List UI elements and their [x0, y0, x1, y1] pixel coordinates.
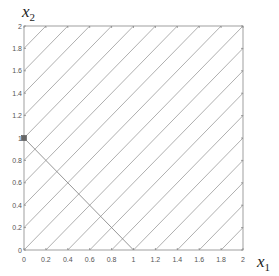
- x-tick-label: 0: [22, 256, 26, 263]
- x-tick-label: 1.8: [216, 256, 226, 263]
- y-tick-label: 0.6: [12, 179, 22, 186]
- contour-line: [177, 183, 243, 250]
- x-tick-label: 0.4: [63, 256, 73, 263]
- x-axis-label: x1: [257, 252, 270, 273]
- contour-line: [155, 160, 243, 250]
- contour-line: [199, 205, 243, 250]
- y-tick-label: 0.2: [12, 224, 22, 231]
- x-tick-label: 1.6: [194, 256, 204, 263]
- y-tick-label: 0: [18, 247, 22, 254]
- contour-line: [24, 26, 155, 160]
- y-tick-label: 0.8: [12, 157, 22, 164]
- contour-line: [24, 26, 112, 116]
- contour-line: [24, 26, 221, 228]
- x-tick-label: 0.6: [85, 256, 95, 263]
- contour-line: [24, 26, 177, 183]
- contour-line: [24, 26, 68, 71]
- contour-line: [24, 26, 90, 93]
- x-tick-label: 0.2: [41, 256, 51, 263]
- x-tick-label: 1.2: [151, 256, 161, 263]
- contour-line: [221, 228, 243, 250]
- point-marker: [22, 136, 27, 141]
- y-tick-label: 1.8: [12, 45, 22, 52]
- chart-plot: 00.20.40.60.811.21.41.61.8200.20.40.60.8…: [0, 0, 279, 276]
- contour-line: [90, 93, 243, 250]
- y-tick-label: 0.4: [12, 202, 22, 209]
- y-tick-label: 2: [18, 23, 22, 30]
- contour-line: [24, 26, 134, 138]
- x-tick-label: 1.4: [172, 256, 182, 263]
- contour-line: [24, 26, 199, 205]
- contour-line: [112, 116, 243, 250]
- contour-line: [24, 26, 46, 48]
- x-tick-label: 2: [241, 256, 245, 263]
- contour-line: [134, 138, 244, 250]
- y-tick-label: 1.6: [12, 67, 22, 74]
- x-tick-label: 0.8: [107, 256, 117, 263]
- contour-line: [68, 71, 243, 250]
- y-tick-label: 1.2: [12, 112, 22, 119]
- y-axis-label: x2: [22, 2, 35, 23]
- contour-line: [46, 48, 243, 250]
- x-tick-label: 1: [132, 256, 136, 263]
- y-tick-label: 1.4: [12, 90, 22, 97]
